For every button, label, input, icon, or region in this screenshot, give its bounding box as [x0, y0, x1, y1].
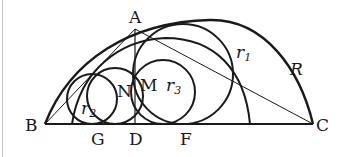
diagram-canvas: A B C D F G M N R r1 r2 r3	[0, 0, 346, 157]
arc-inner	[72, 38, 250, 124]
label-d: D	[129, 129, 143, 149]
label-g: G	[91, 129, 105, 149]
label-r1: r1	[236, 42, 251, 64]
label-a: A	[128, 7, 142, 27]
label-n: N	[117, 81, 132, 101]
label-r3: r3	[166, 75, 181, 97]
label-b: B	[25, 115, 38, 135]
label-big-r: R	[289, 59, 303, 79]
segment-ac	[135, 29, 313, 124]
label-c: C	[316, 115, 329, 135]
label-m: M	[140, 75, 157, 95]
geometry-diagram: A B C D F G M N R r1 r2 r3	[0, 0, 346, 157]
label-r2: r2	[81, 98, 96, 120]
label-f: F	[180, 129, 192, 149]
